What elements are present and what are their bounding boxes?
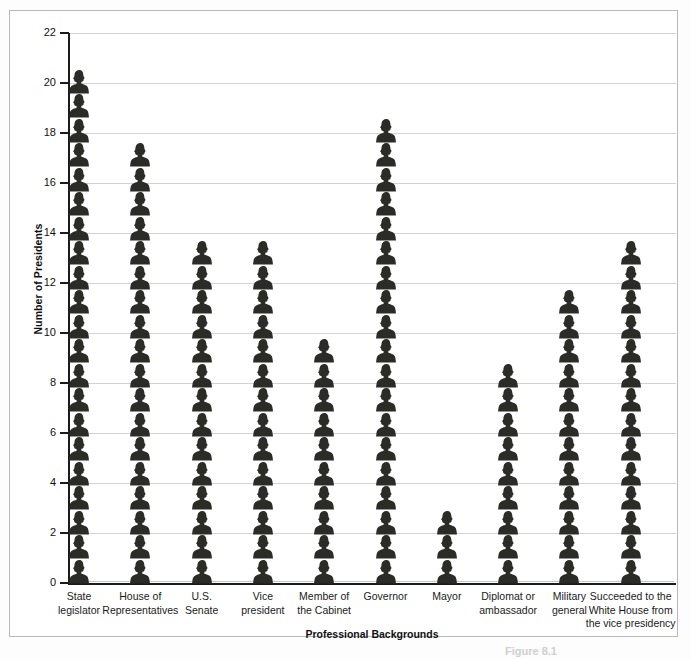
x-axis-title: Professional Backgrounds xyxy=(68,628,676,640)
x-axis-category-label-line: the Cabinet xyxy=(281,604,367,618)
person-silhouette-icon xyxy=(130,485,150,510)
person-silhouette-icon xyxy=(69,265,89,290)
person-silhouette-icon xyxy=(376,559,396,584)
person-silhouette-icon xyxy=(253,534,273,559)
person-silhouette-icon xyxy=(69,485,89,510)
person-silhouette-icon xyxy=(69,216,89,241)
person-silhouette-icon xyxy=(253,387,273,412)
person-silhouette-icon xyxy=(69,191,89,216)
person-silhouette-icon xyxy=(253,436,273,461)
person-silhouette-icon xyxy=(69,142,89,167)
person-silhouette-icon xyxy=(192,510,212,535)
person-silhouette-icon xyxy=(376,412,396,437)
person-silhouette-icon xyxy=(192,436,212,461)
person-silhouette-icon xyxy=(192,412,212,437)
person-silhouette-icon xyxy=(498,363,518,388)
person-silhouette-icon xyxy=(253,314,273,339)
person-silhouette-icon xyxy=(253,363,273,388)
person-silhouette-icon xyxy=(130,510,150,535)
person-silhouette-icon xyxy=(192,338,212,363)
person-silhouette-icon xyxy=(130,240,150,265)
person-silhouette-icon xyxy=(314,412,334,437)
person-silhouette-icon xyxy=(69,69,89,94)
person-silhouette-icon xyxy=(314,534,334,559)
person-silhouette-icon xyxy=(314,338,334,363)
scanned-page: Number of Presidents 0246810121416182022… xyxy=(0,0,691,659)
person-silhouette-icon xyxy=(69,436,89,461)
person-silhouette-icon xyxy=(621,363,641,388)
person-silhouette-icon xyxy=(376,289,396,314)
person-silhouette-icon xyxy=(192,534,212,559)
person-silhouette-icon xyxy=(130,387,150,412)
person-silhouette-icon xyxy=(130,289,150,314)
person-silhouette-icon xyxy=(192,461,212,486)
person-silhouette-icon xyxy=(437,559,457,584)
person-silhouette-icon xyxy=(130,461,150,486)
person-silhouette-icon xyxy=(130,216,150,241)
person-silhouette-icon xyxy=(69,314,89,339)
person-silhouette-icon xyxy=(559,338,579,363)
person-silhouette-icon xyxy=(192,289,212,314)
x-axis-line xyxy=(68,583,676,585)
person-silhouette-icon xyxy=(69,240,89,265)
person-silhouette-icon xyxy=(621,338,641,363)
person-silhouette-icon xyxy=(314,485,334,510)
person-silhouette-icon xyxy=(130,191,150,216)
person-silhouette-icon xyxy=(376,314,396,339)
person-silhouette-icon xyxy=(130,142,150,167)
person-silhouette-icon xyxy=(621,412,641,437)
person-silhouette-icon xyxy=(498,559,518,584)
person-silhouette-icon xyxy=(69,559,89,584)
person-silhouette-icon xyxy=(559,436,579,461)
person-silhouette-icon xyxy=(130,338,150,363)
person-silhouette-icon xyxy=(559,387,579,412)
person-silhouette-icon xyxy=(253,559,273,584)
person-silhouette-icon xyxy=(376,142,396,167)
person-silhouette-icon xyxy=(621,534,641,559)
person-silhouette-icon xyxy=(376,118,396,143)
figure-caption-fragment: Figure 8.1 xyxy=(505,645,625,657)
bar xyxy=(376,108,396,583)
person-silhouette-icon xyxy=(69,289,89,314)
person-silhouette-icon xyxy=(559,314,579,339)
person-silhouette-icon xyxy=(130,167,150,192)
person-silhouette-icon xyxy=(559,289,579,314)
person-silhouette-icon xyxy=(376,191,396,216)
bar xyxy=(69,58,89,583)
person-silhouette-icon xyxy=(498,485,518,510)
person-silhouette-icon xyxy=(192,265,212,290)
bars-layer xyxy=(10,11,677,583)
person-silhouette-icon xyxy=(376,167,396,192)
person-silhouette-icon xyxy=(192,240,212,265)
bar xyxy=(314,333,334,583)
person-silhouette-icon xyxy=(314,510,334,535)
x-axis-category-label: Succeeded to theWhite House fromthe vice… xyxy=(575,590,687,631)
person-silhouette-icon xyxy=(376,216,396,241)
person-silhouette-icon xyxy=(314,436,334,461)
person-silhouette-icon xyxy=(130,265,150,290)
person-silhouette-icon xyxy=(376,363,396,388)
person-silhouette-icon xyxy=(621,436,641,461)
person-silhouette-icon xyxy=(621,289,641,314)
person-silhouette-icon xyxy=(253,412,273,437)
person-silhouette-icon xyxy=(69,363,89,388)
person-silhouette-icon xyxy=(559,461,579,486)
person-silhouette-icon xyxy=(376,240,396,265)
person-silhouette-icon xyxy=(498,534,518,559)
bar xyxy=(498,358,518,583)
person-silhouette-icon xyxy=(69,167,89,192)
x-axis-category-label-line: White House from xyxy=(575,604,687,618)
person-silhouette-icon xyxy=(253,461,273,486)
person-silhouette-icon xyxy=(69,338,89,363)
person-silhouette-icon xyxy=(253,485,273,510)
person-silhouette-icon xyxy=(253,240,273,265)
bar xyxy=(559,283,579,583)
person-silhouette-icon xyxy=(192,559,212,584)
person-silhouette-icon xyxy=(559,510,579,535)
person-silhouette-icon xyxy=(376,534,396,559)
bar xyxy=(130,133,150,583)
person-silhouette-icon xyxy=(130,534,150,559)
person-silhouette-icon xyxy=(376,387,396,412)
person-silhouette-icon xyxy=(621,314,641,339)
person-silhouette-icon xyxy=(376,436,396,461)
